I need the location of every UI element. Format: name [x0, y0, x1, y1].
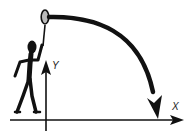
- x-axis-label: X: [172, 102, 179, 112]
- stick-figure: [15, 41, 42, 113]
- figure-head: [28, 41, 37, 54]
- y-axis-label: Y: [52, 61, 59, 71]
- projectile-diagram: [0, 0, 190, 139]
- trajectory-arrowhead-icon: [147, 95, 162, 119]
- trajectory-arrow: [49, 17, 162, 119]
